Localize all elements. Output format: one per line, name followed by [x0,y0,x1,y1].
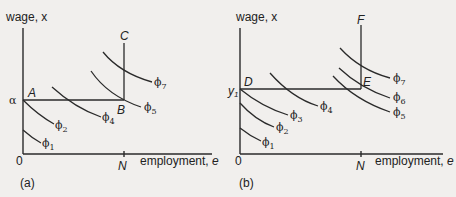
panel-a-phi1-label: ϕ1 [42,137,55,152]
panel-a-origin-label: 0 [16,154,23,168]
panel-a-x-axis-label: employment, e [140,154,219,168]
panel-a-alpha-label: α [9,94,17,107]
panel-b: wage, x 0 N employment, e (b) y1 D E F ϕ… [227,10,454,190]
panel-a-caption: (a) [20,176,35,190]
diagram-canvas: wage, x 0 N employment, e (a) α A B C ϕ1… [0,0,456,197]
panel-a-curve-phi5 [91,71,141,107]
point-A-label: A [27,86,36,100]
panel-b-phi1-label: ϕ1 [262,136,275,151]
panel-a-phi2-label: ϕ2 [55,119,68,134]
panel-a-x-tick-label: N [118,159,127,173]
panel-b-curve-phi7 [340,48,390,78]
panel-b-phi3-label: ϕ3 [290,109,303,124]
panel-b-phi5-label: ϕ5 [393,106,406,121]
panel-a-y-axis-label: wage, x [5,10,47,24]
point-F-label: F [357,13,365,27]
point-C-label: C [120,29,129,43]
panel-a: wage, x 0 N employment, e (a) α A B C ϕ1… [5,10,219,190]
panel-b-y-axis-label: wage, x [235,10,277,24]
point-D-label: D [244,75,253,89]
point-B-label: B [117,103,125,117]
panel-a-curve-phi7 [103,52,152,82]
panel-b-origin-label: 0 [235,154,242,168]
panel-a-phi4-label: ϕ4 [102,111,115,126]
panel-a-curve-phi1 [23,130,41,143]
panel-a-phi5-label: ϕ5 [144,101,157,116]
panel-a-curve-phi4 [52,87,101,117]
panel-b-phi6-label: ϕ6 [393,91,406,106]
panel-b-x-axis-label: employment, e [375,154,454,168]
panel-b-x-tick-label: N [356,159,365,173]
panel-b-curve-phi2 [240,103,274,127]
panel-b-curve-phi1 [240,128,261,141]
panel-b-y1-label: y1 [227,84,238,99]
panel-b-phi2-label: ϕ2 [276,121,289,136]
panel-b-phi7-label: ϕ7 [393,72,406,87]
panel-b-caption: (b) [239,176,254,190]
panel-a-curve-phi2 [23,100,54,124]
panel-a-phi7-label: ϕ7 [154,76,167,91]
panel-b-phi4-label: ϕ4 [320,100,333,115]
